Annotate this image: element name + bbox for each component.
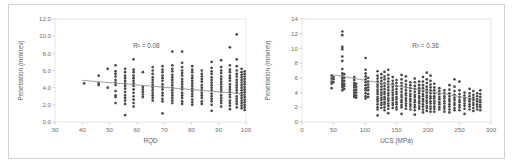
data-point (210, 79, 213, 82)
data-point (472, 104, 475, 107)
data-point (409, 81, 412, 84)
data-point (438, 98, 441, 101)
data-point (380, 79, 383, 82)
data-point (220, 72, 223, 75)
data-point (429, 97, 432, 100)
data-point (240, 81, 243, 84)
data-point (181, 100, 184, 103)
data-point (405, 79, 408, 82)
data-point (405, 89, 408, 92)
data-point (383, 106, 386, 109)
data-point (240, 67, 243, 70)
data-point (243, 85, 246, 88)
data-point (463, 99, 466, 102)
x-tick-label: 30 (52, 126, 59, 133)
data-point (210, 84, 213, 87)
data-point (171, 67, 174, 70)
data-point (220, 105, 223, 108)
data-point (132, 77, 135, 80)
data-point (220, 80, 223, 83)
scatter-plot-rqd-penetration: 0.02.04.06.08.010.012.030405060708090100… (9, 5, 258, 160)
data-point (229, 71, 232, 74)
scatter-plot-ucs-penetration: 02468101214050100150200250300UCS (MPa)Pe… (258, 5, 504, 160)
data-point (367, 93, 370, 96)
data-point (240, 76, 243, 79)
data-point (448, 108, 451, 111)
data-point (376, 85, 379, 88)
data-point (161, 91, 164, 94)
data-point (151, 97, 154, 100)
chart-panel-ucs: 02468101214050100150200250300UCS (MPa)Pe… (258, 5, 504, 160)
data-point (413, 90, 416, 93)
data-point (171, 70, 174, 73)
data-point (479, 96, 482, 99)
data-point (229, 102, 232, 105)
data-point (453, 99, 456, 102)
data-point (210, 95, 213, 98)
data-point (418, 80, 421, 83)
data-point (200, 103, 203, 106)
data-point (391, 99, 394, 102)
y-tick-label: 10 (291, 45, 298, 52)
data-point (235, 97, 238, 100)
data-point (181, 94, 184, 97)
data-point (413, 77, 416, 80)
data-point (425, 85, 428, 88)
x-axis-title: UCS (MPa) (380, 137, 413, 145)
data-point (463, 104, 466, 107)
data-point (468, 100, 471, 103)
data-point (376, 100, 379, 103)
data-point (395, 79, 398, 82)
data-point (124, 114, 127, 117)
data-point (132, 105, 135, 108)
data-point (132, 74, 135, 77)
data-point (210, 103, 213, 106)
data-point (106, 86, 109, 89)
data-point (425, 107, 428, 110)
data-point (171, 76, 174, 79)
data-point (383, 98, 386, 101)
data-point (161, 94, 164, 97)
data-point (425, 78, 428, 81)
data-point (422, 105, 425, 108)
data-point (458, 101, 461, 104)
data-point (413, 106, 416, 109)
data-point (443, 110, 446, 113)
data-point (391, 79, 394, 82)
data-point (240, 102, 243, 105)
data-point (395, 88, 398, 91)
data-point (151, 81, 154, 84)
data-point (191, 79, 194, 82)
data-point (240, 107, 243, 110)
data-point (243, 98, 246, 101)
x-tick-label: 150 (391, 126, 402, 133)
data-point (191, 92, 194, 95)
data-point (400, 82, 403, 85)
data-point (405, 94, 408, 97)
x-tick-label: 300 (486, 126, 497, 133)
y-tick-label: 6 (295, 74, 299, 81)
data-point (468, 92, 471, 95)
data-point (438, 90, 441, 93)
data-point (132, 91, 135, 94)
data-point (161, 83, 164, 86)
data-point (229, 99, 232, 102)
data-point (243, 73, 246, 76)
x-tick-label: 60 (133, 126, 140, 133)
data-point (429, 74, 432, 77)
data-point (240, 94, 243, 97)
data-point (364, 97, 367, 100)
data-point (235, 69, 238, 72)
data-point (210, 61, 213, 64)
data-point (383, 93, 386, 96)
data-point (341, 55, 344, 58)
data-point (229, 96, 232, 99)
data-point (418, 97, 421, 100)
data-point (479, 93, 482, 96)
data-point (235, 106, 238, 109)
data-point (463, 107, 466, 110)
data-point (391, 107, 394, 110)
data-point (124, 67, 127, 70)
data-point (433, 102, 436, 105)
data-point (458, 109, 461, 112)
